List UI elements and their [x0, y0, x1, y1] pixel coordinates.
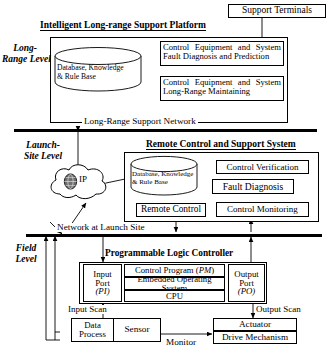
actuator-box[interactable]: Actuator [213, 318, 297, 331]
launch-site-network-bus [26, 234, 322, 237]
sensor-label: Sensor [124, 325, 149, 334]
cpu-label: CPU [166, 292, 183, 301]
globe-icon [63, 173, 78, 190]
fault-diagnosis-label: Fault Diagnosis [223, 182, 284, 192]
field-level-line1: Field [6, 243, 46, 254]
control-verification-box[interactable]: Control Verification [216, 160, 309, 174]
long-range-maintaining-box[interactable]: Control Equipment and System Long-Range … [160, 76, 284, 101]
control-verification-label: Control Verification [226, 163, 298, 172]
maintaining-line2: Long-Range Maintaining [163, 87, 281, 96]
field-level-line2: Level [6, 254, 46, 265]
launch-site-database-text: Database, Knowledge & Rule Base [132, 171, 193, 187]
ip-network-cloud: IP [46, 160, 110, 206]
launch-site-level-line1: Launch- [14, 140, 72, 151]
data-process-line2: Process [79, 330, 106, 339]
support-terminals-label: Support Terminals [242, 6, 312, 16]
control-monitoring-box[interactable]: Control Monitoring [216, 202, 309, 217]
long-range-database-line2: & Rule Base [57, 73, 124, 82]
control-monitoring-label: Control Monitoring [227, 205, 298, 214]
platform-title: Intelligent Long-range Support Platform [40, 20, 206, 31]
sensor-box[interactable]: Sensor [113, 318, 161, 342]
drive-mechanism-box[interactable]: Drive Mechanism [213, 331, 297, 344]
launch-db-line2: & Rule Base [132, 179, 193, 187]
long-range-support-bus [14, 129, 317, 132]
input-port-line3: (PI) [95, 287, 109, 296]
support-terminals-box[interactable]: Support Terminals [228, 4, 326, 18]
input-scan-label: Input Scan [68, 305, 107, 314]
long-range-database-cylinder: Database, Knowledge & Rule Base [54, 47, 142, 91]
input-port-box[interactable]: Input Port (PI) [83, 264, 122, 302]
fault-diagnosis-prediction-box[interactable]: Control Equipment and System Fault Diagn… [160, 41, 284, 66]
cpu-box[interactable]: CPU [124, 290, 225, 302]
plc-title: Programmable Logic Controller [105, 248, 233, 258]
diagram-canvas: Intelligent Long-range Support Platform … [0, 0, 331, 363]
field-level-label: Field Level [6, 243, 46, 265]
long-range-level-line2: Range Level [2, 54, 48, 65]
remote-control-box[interactable]: Remote Control [136, 203, 206, 217]
ip-label: IP [79, 174, 87, 184]
launch-site-level-label: Launch- Site Level [14, 140, 72, 162]
remote-control-label: Remote Control [141, 205, 201, 214]
drive-mechanism-label: Drive Mechanism [222, 333, 288, 342]
fault-diagnosis-line2: Fault Diagnosis and Prediction [163, 52, 281, 61]
launch-site-database-cylinder: Database, Knowledge & Rule Base [130, 156, 198, 196]
output-port-box[interactable]: Output Port (PO) [228, 264, 265, 302]
remote-system-title: Remote Control and Support System [146, 139, 296, 150]
actuator-label: Actuator [239, 320, 271, 329]
output-scan-label: Output Scan [256, 305, 301, 314]
monitor-label: Monitor [166, 338, 196, 347]
long-range-level-line1: Long- [2, 43, 48, 54]
launch-network-label: Network at Launch Site [55, 223, 147, 232]
long-range-database-text: Database, Knowledge & Rule Base [57, 64, 124, 81]
output-port-line3: (PO) [238, 287, 256, 296]
data-process-box[interactable]: Data Process [71, 318, 114, 342]
embedded-os-box[interactable]: Embedded Operating System [124, 277, 225, 290]
long-range-network-label: Long-Range Support Network [82, 117, 198, 126]
long-range-level-label: Long- Range Level [2, 43, 48, 65]
fault-diagnosis-box[interactable]: Fault Diagnosis [212, 179, 294, 194]
